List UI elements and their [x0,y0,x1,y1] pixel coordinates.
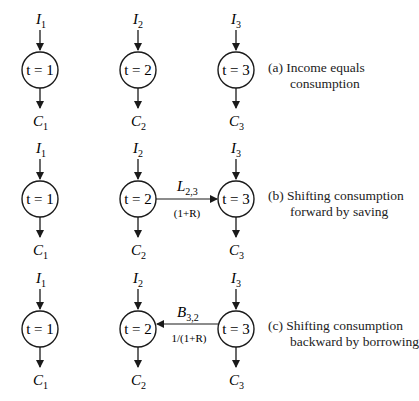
income-label: I2 [132,11,143,30]
borrowing-edge: B3,2 1/(1+R) [157,304,218,345]
income-label: I1 [35,270,46,289]
income-label: I3 [230,270,241,289]
income-label: I3 [230,140,241,159]
period-label: t = 1 [26,62,54,78]
panel-b: I1 t = 1 C1 I2 t = 2 C2 I3 t = 3 C3 L2,3 [22,140,254,261]
consumption-label: C1 [33,372,48,391]
income-label: I3 [230,11,241,30]
caption-c-line2: backward by borrowing [268,334,419,350]
income-label: I1 [35,11,46,30]
node-t3: I3 t = 3 C3 [218,140,254,261]
interest-factor: (1+R) [174,207,201,220]
lending-label: L2,3 [176,178,198,197]
node-t1: I1 t = 1 C1 [22,11,58,132]
caption-b-line1: (b) Shifting consumption [268,188,404,203]
period-label: t = 1 [26,191,54,207]
node-t2: I2 t = 2 C2 [120,140,156,261]
node-t3: I3 t = 3 C3 [218,11,254,132]
period-label: t = 2 [124,62,152,78]
period-label: t = 2 [124,191,152,207]
node-t3: I3 t = 3 C3 [218,270,254,391]
period-label: t = 3 [222,191,250,207]
caption-b-line2: forward by saving [268,204,404,220]
borrowing-label: B3,2 [177,304,199,323]
node-t2: I2 t = 2 C2 [120,270,156,391]
consumption-label: C2 [131,113,146,132]
consumption-label: C2 [131,372,146,391]
panel-a: I1 t = 1 C1 I2 t = 2 C2 I3 t = 3 C3 [22,11,254,132]
caption-b: (b) Shifting consumption forward by savi… [268,188,404,220]
node-t1: I1 t = 1 C1 [22,140,58,261]
consumption-label: C3 [229,113,244,132]
income-label: I2 [132,140,143,159]
caption-a: (a) Income equals consumption [268,60,365,92]
income-label: I1 [35,140,46,159]
consumption-label: C1 [33,113,48,132]
caption-a-line1: (a) Income equals [268,60,365,75]
discount-factor: 1/(1+R) [172,332,207,345]
panel-c: I1 t = 1 C1 I2 t = 2 C2 I3 t = 3 C3 B3,2 [22,270,254,391]
caption-a-line2: consumption [268,76,365,92]
saving-edge: L2,3 (1+R) [156,178,217,220]
period-label: t = 1 [26,321,54,337]
node-t2: I2 t = 2 C2 [120,11,156,132]
caption-c: (c) Shifting consumption backward by bor… [268,318,419,350]
period-label: t = 3 [222,62,250,78]
consumption-label: C1 [33,242,48,261]
period-label: t = 3 [222,321,250,337]
period-label: t = 2 [124,321,152,337]
income-label: I2 [132,270,143,289]
consumption-label: C3 [229,372,244,391]
caption-c-line1: (c) Shifting consumption [268,318,403,333]
consumption-label: C3 [229,242,244,261]
node-t1: I1 t = 1 C1 [22,270,58,391]
consumption-label: C2 [131,242,146,261]
